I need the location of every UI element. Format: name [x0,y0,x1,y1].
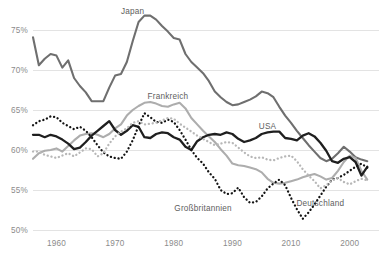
series-label-gro-britannien: Großbritannien [174,204,232,213]
x-axis-tick-label: 1980 [164,239,183,248]
y-axis-tick-label: 75% [11,26,28,35]
x-axis-tick-label: 1960 [47,239,66,248]
x-axis-tick-labels: 196019701980199020102000 [47,239,359,248]
chart-container: 50%55%60%65%70%75% 196019701980199020102… [0,0,385,266]
x-axis-tick-label: 1970 [106,239,125,248]
line-chart: 50%55%60%65%70%75% 196019701980199020102… [0,0,385,266]
y-axis-tick-label: 50% [11,226,28,235]
y-axis-tick-label: 65% [11,106,28,115]
series-label-frankreich: Frankreich [148,92,189,101]
y-axis-tick-label: 60% [11,146,28,155]
series-line-frankreich [33,102,367,184]
series-label-japan: Japan [121,7,145,16]
x-axis-tick-label: 2000 [340,239,359,248]
y-axis-tick-label: 55% [11,186,28,195]
series-label-usa: USA [259,122,277,131]
y-axis-tick-label: 70% [11,66,28,75]
series-lines [33,16,367,219]
x-axis-tick-label: 2010 [282,239,301,248]
x-axis-tick-label: 1990 [223,239,242,248]
y-axis-tick-labels: 50%55%60%65%70%75% [11,26,28,235]
series-label-deutschland: Deutschland [296,199,344,208]
